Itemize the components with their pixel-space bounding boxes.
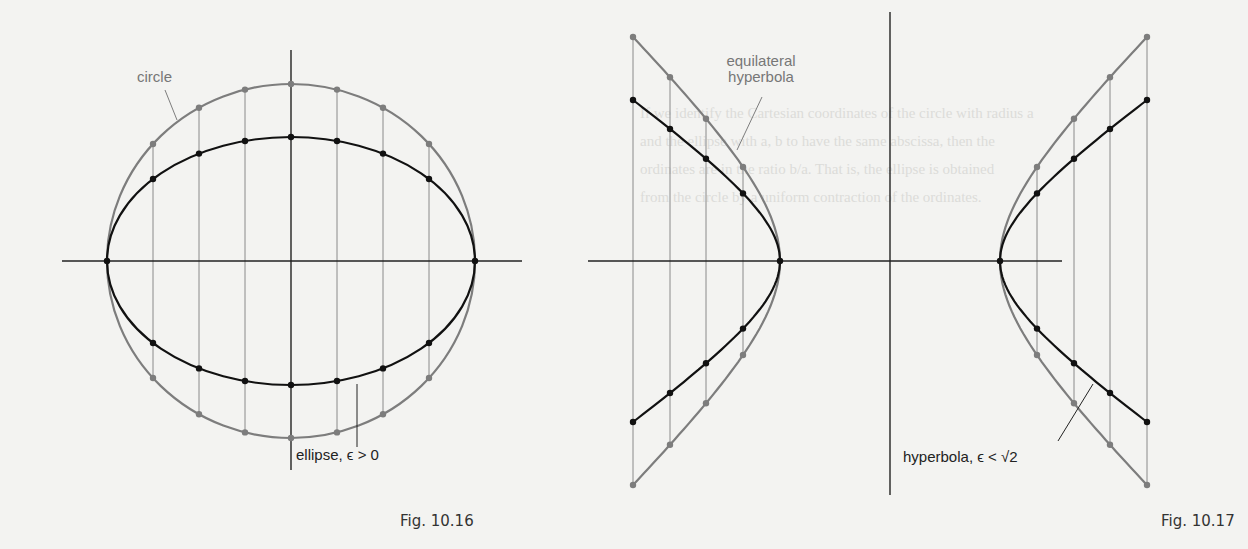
circle-point: [242, 429, 248, 435]
ellipse-label: ellipse, ϵ > 0: [296, 446, 379, 463]
hyperbola-point: [630, 419, 636, 425]
vertex-point: [997, 258, 1003, 264]
hyperbola-point: [1107, 390, 1113, 396]
circle-point: [196, 105, 202, 111]
circle-point: [288, 435, 294, 441]
circle-point: [380, 105, 386, 111]
hyperbola-point: [1071, 360, 1077, 366]
hyperbola-point: [703, 156, 709, 162]
equilateral-point: [630, 482, 636, 488]
equilateral-point: [1107, 74, 1113, 80]
equilateral-point: [1144, 34, 1150, 40]
ellipse-point: [426, 176, 432, 182]
ellipse-point: [196, 365, 202, 371]
ellipse-point: [150, 176, 156, 182]
ellipse-point: [150, 340, 156, 346]
equilateral-point: [1034, 352, 1040, 358]
equilateral-label-line1: equilateral: [706, 53, 816, 69]
circle-label: circle: [137, 68, 172, 85]
hyperbola-point: [667, 126, 673, 132]
equilateral-hyperbola-label: equilateral hyperbola: [706, 53, 816, 85]
hyperbola-point: [630, 97, 636, 103]
ellipse-point: [288, 382, 294, 388]
equilateral-point: [1107, 442, 1113, 448]
vertex-point: [777, 258, 783, 264]
equilateral-point: [703, 116, 709, 122]
ellipse-point: [288, 134, 294, 140]
equilateral-point: [1071, 116, 1077, 122]
circle-point: [196, 411, 202, 417]
equilateral-point: [667, 74, 673, 80]
hyperbola-point: [740, 190, 746, 196]
hyperbola-point: [1107, 126, 1113, 132]
hyperbola-point: [1034, 190, 1040, 196]
hyperbola-point: [1144, 419, 1150, 425]
circle-point: [150, 141, 156, 147]
ellipse-point: [242, 378, 248, 384]
ellipse-point: [334, 378, 340, 384]
figure-canvas: [0, 0, 1248, 549]
vertex-point: [472, 258, 478, 264]
circle-point: [426, 141, 432, 147]
hyperbola-point: [1034, 325, 1040, 331]
ellipse-point: [380, 150, 386, 156]
circle-point: [242, 86, 248, 92]
equilateral-point: [740, 164, 746, 170]
figure-caption-10-16: Fig. 10.16: [400, 512, 474, 530]
figure-caption-10-17: Fig. 10.17: [1161, 512, 1235, 530]
circle-point: [380, 411, 386, 417]
equilateral-point: [703, 400, 709, 406]
hyperbola-point: [740, 325, 746, 331]
ellipse-point: [242, 138, 248, 144]
hyperbola-point: [1144, 97, 1150, 103]
vertex-point: [104, 258, 110, 264]
circle-point: [426, 375, 432, 381]
circle-point: [334, 429, 340, 435]
hyperbola-point: [667, 390, 673, 396]
figure-page: If we identify the Cartesian coordinates…: [0, 0, 1248, 549]
equilateral-point: [630, 34, 636, 40]
circle-point: [288, 81, 294, 87]
equilateral-leader: [737, 97, 762, 150]
equilateral-point: [1034, 164, 1040, 170]
ellipse-point: [426, 340, 432, 346]
hyperbola-eccentricity-label: hyperbola, ϵ < √2: [903, 448, 1018, 465]
equilateral-point: [1144, 482, 1150, 488]
circle-leader: [165, 90, 177, 120]
ellipse-point: [380, 365, 386, 371]
ellipse-point: [196, 150, 202, 156]
equilateral-point: [667, 442, 673, 448]
circle-point: [334, 86, 340, 92]
hyperbola-point: [1071, 156, 1077, 162]
circle-point: [150, 375, 156, 381]
hyperbola-leader: [1058, 384, 1093, 441]
equilateral-point: [740, 352, 746, 358]
equilateral-label-line2: hyperbola: [706, 69, 816, 85]
hyperbola-point: [703, 360, 709, 366]
ellipse-point: [334, 138, 340, 144]
equilateral-point: [1071, 400, 1077, 406]
